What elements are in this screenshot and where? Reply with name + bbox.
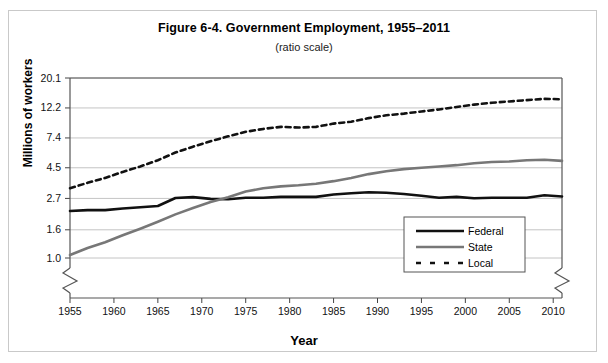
x-axis-break — [555, 268, 569, 293]
x-tick-label: 1990 — [366, 305, 390, 317]
series-line-local — [70, 99, 562, 188]
y-tick-label: 20.1 — [41, 72, 62, 84]
y-tick-label: 1.6 — [46, 223, 61, 235]
y-tick-label: 4.5 — [46, 161, 61, 173]
x-tick-label: 1965 — [146, 305, 170, 317]
legend-label-local: Local — [468, 257, 493, 269]
x-tick-label: 2010 — [542, 305, 566, 317]
legend-label-federal: Federal — [468, 225, 504, 237]
x-tick-label: 1960 — [102, 305, 126, 317]
x-tick-label: 1985 — [322, 305, 346, 317]
x-tick-label: 1955 — [58, 305, 82, 317]
government-employment-chart: 1.01.62.74.57.412.220.1 1955196019651970… — [0, 0, 608, 363]
x-tick-label: 2005 — [498, 305, 522, 317]
x-tick-label: 2000 — [454, 305, 478, 317]
y-axis-break — [63, 268, 77, 293]
x-tick-label: 1970 — [190, 305, 214, 317]
x-tick-label: 1980 — [278, 305, 302, 317]
y-tick-label: 7.4 — [46, 131, 61, 143]
chart-legend: FederalStateLocal — [404, 217, 525, 272]
x-tick-label: 1995 — [410, 305, 434, 317]
series-line-federal — [70, 192, 562, 211]
y-tick-label: 1.0 — [46, 252, 61, 264]
x-tick-label: 1975 — [234, 305, 258, 317]
figure-page: Figure 6-4. Government Employment, 1955–… — [0, 0, 608, 363]
x-axis-ticks: 1955196019651970197519801985199019952000… — [58, 298, 565, 317]
y-tick-label: 2.7 — [46, 192, 61, 204]
legend-label-state: State — [468, 241, 493, 253]
y-axis-ticks: 1.01.62.74.57.412.220.1 — [41, 72, 70, 264]
y-tick-label: 12.2 — [41, 101, 62, 113]
legend-box — [404, 217, 525, 272]
